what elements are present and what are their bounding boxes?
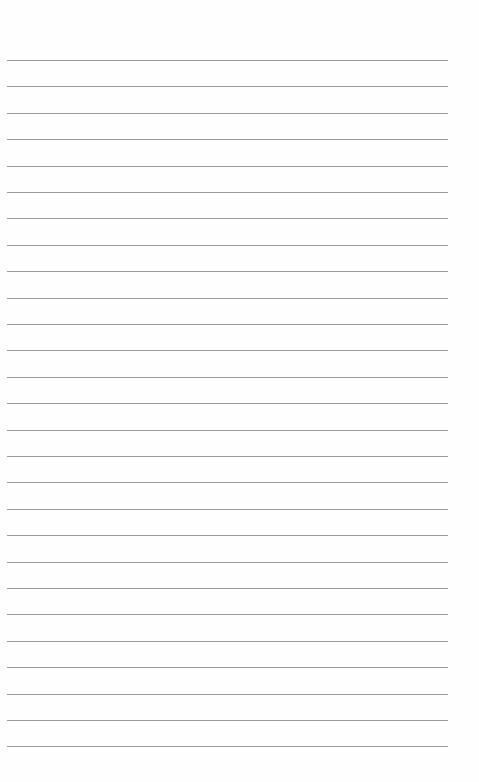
ruled-line <box>7 720 448 721</box>
ruled-line <box>7 482 448 483</box>
ruled-page <box>0 0 479 782</box>
ruled-line <box>7 113 448 114</box>
ruled-line <box>7 667 448 668</box>
ruled-line <box>7 562 448 563</box>
ruled-line <box>7 271 448 272</box>
ruled-line <box>7 430 448 431</box>
ruled-line <box>7 456 448 457</box>
ruled-line <box>7 588 448 589</box>
ruled-line <box>7 350 448 351</box>
ruled-line <box>7 86 448 87</box>
ruled-line <box>7 192 448 193</box>
ruled-line <box>7 535 448 536</box>
ruled-line <box>7 403 448 404</box>
ruled-line <box>7 166 448 167</box>
ruled-line <box>7 60 448 61</box>
ruled-line <box>7 746 448 747</box>
ruled-line <box>7 694 448 695</box>
ruled-line <box>7 641 448 642</box>
ruled-line <box>7 245 448 246</box>
ruled-line <box>7 139 448 140</box>
ruled-line <box>7 614 448 615</box>
ruled-line <box>7 377 448 378</box>
ruled-line <box>7 509 448 510</box>
ruled-line <box>7 218 448 219</box>
ruled-line <box>7 324 448 325</box>
ruled-line <box>7 298 448 299</box>
